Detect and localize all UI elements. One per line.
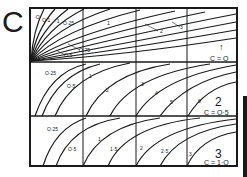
svg-text:O·25: O·25 — [47, 126, 58, 132]
svg-text:4: 4 — [155, 90, 158, 96]
panel-2-c-label: C = O·5 — [204, 109, 229, 116]
panel-1-number: ↑ — [219, 42, 224, 52]
svg-text:1: 1 — [98, 136, 101, 142]
svg-text:1·5: 1·5 — [110, 146, 117, 152]
svg-text:2: 2 — [106, 87, 109, 93]
panel-letter: C — [2, 5, 24, 38]
svg-text:O·5: O·5 — [64, 52, 73, 58]
svg-text:·1: ·1 — [55, 18, 60, 24]
panel-3-c-label: C = 1·O — [204, 159, 229, 166]
panel-1-c-label: C = O — [210, 55, 229, 62]
svg-text:O·75: O·75 — [79, 47, 90, 53]
svg-text:O·1: O·1 — [42, 17, 51, 23]
svg-text:2: 2 — [140, 145, 143, 151]
svg-text:2: 2 — [160, 28, 163, 34]
svg-text:O·25: O·25 — [45, 70, 56, 76]
panel-2-labels: O·25 O·5 1 2 3 4 5 6 — [45, 70, 201, 105]
svg-text:2·5: 2·5 — [161, 148, 168, 154]
svg-text:3: 3 — [141, 81, 144, 87]
svg-text:1: 1 — [89, 73, 92, 79]
panel-2-number: 2 — [215, 95, 222, 109]
svg-text:5: 5 — [170, 99, 173, 105]
svg-text:3: 3 — [189, 151, 192, 157]
svg-text:1: 1 — [107, 20, 110, 26]
scan-edge — [243, 96, 247, 177]
svg-text:6: 6 — [198, 98, 201, 104]
figure-canvas: C ·O O·1 ·1 O·25 O·5 O·75 1 2 3 ↑ — [0, 0, 247, 177]
svg-text:O·5: O·5 — [68, 146, 77, 152]
svg-text:3: 3 — [180, 24, 183, 30]
svg-text:O·5: O·5 — [67, 83, 76, 89]
svg-text:O·25: O·25 — [63, 20, 74, 26]
svg-text:·O: ·O — [34, 14, 40, 20]
